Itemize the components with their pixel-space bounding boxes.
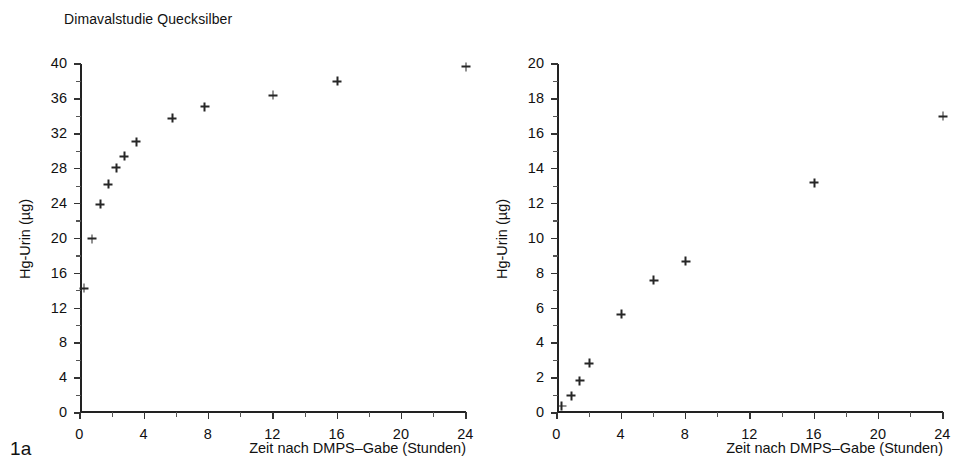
data-point-1b	[617, 310, 626, 319]
y-tick-1b: 10	[551, 238, 558, 240]
y-axis-label-1b: Hg-Urin (µg)	[491, 64, 513, 413]
y-minor-tick-1b	[553, 325, 558, 326]
x-tick-1b: 0	[556, 412, 558, 419]
y-tick-label-1b: 18	[528, 90, 544, 106]
data-point-1a	[132, 137, 141, 146]
y-tick-1a: 4	[74, 377, 81, 379]
data-point-1a	[333, 77, 342, 86]
data-point-1a	[462, 62, 471, 71]
y-tick-label-1b: 4	[536, 334, 544, 350]
x-minor-tick-1a	[240, 412, 241, 417]
data-point-1a	[200, 102, 209, 111]
y-minor-tick-1a	[76, 220, 81, 221]
x-minor-tick-1b	[653, 412, 654, 417]
y-tick-1a: 36	[74, 98, 81, 100]
y-minor-tick-1a	[76, 395, 81, 396]
y-minor-tick-1a	[76, 186, 81, 187]
y-tick-label-1a: 8	[59, 334, 67, 350]
x-minor-tick-1a	[176, 412, 177, 417]
data-point-1a	[112, 163, 121, 172]
y-minor-tick-1a	[76, 290, 81, 291]
x-tick-1b: 8	[685, 412, 687, 419]
data-point-1b	[585, 359, 594, 368]
x-minor-tick-1a	[112, 412, 113, 417]
data-point-1b	[649, 276, 658, 285]
y-tick-1b: 14	[551, 168, 558, 170]
y-tick-label-1b: 20	[528, 55, 544, 71]
plot-area-1b: 0246810121416182004812162024	[557, 64, 943, 413]
y-minor-tick-1b	[553, 151, 558, 152]
y-tick-label-1b: 6	[536, 300, 544, 316]
y-minor-tick-1a	[76, 116, 81, 117]
y-tick-label-1a: 36	[51, 90, 67, 106]
x-tick-1b: 4	[621, 412, 623, 419]
y-minor-tick-1b	[553, 116, 558, 117]
x-tick-1a: 4	[144, 412, 146, 419]
y-tick-label-1b: 8	[536, 265, 544, 281]
y-tick-label-1a: 0	[59, 404, 67, 420]
x-minor-tick-1b	[717, 412, 718, 417]
chart-title-1a: Dimavalstudie Quecksilber	[64, 11, 232, 27]
data-point-1a	[269, 91, 278, 100]
x-tick-1a: 24	[465, 412, 467, 419]
y-tick-1b: 4	[551, 342, 558, 344]
y-tick-1a: 20	[74, 238, 81, 240]
y-tick-label-1b: 12	[528, 195, 544, 211]
y-minor-tick-1b	[553, 255, 558, 256]
y-minor-tick-1a	[76, 255, 81, 256]
data-point-1a	[88, 234, 97, 243]
x-tick-1b: 12	[749, 412, 751, 419]
x-tick-1a: 0	[79, 412, 81, 419]
y-minor-tick-1b	[553, 220, 558, 221]
y-tick-1a: 24	[74, 203, 81, 205]
y-tick-label-1b: 0	[536, 404, 544, 420]
y-minor-tick-1b	[553, 186, 558, 187]
data-point-1b	[575, 376, 584, 385]
data-point-1b	[567, 391, 576, 400]
data-point-1b	[681, 257, 690, 266]
y-tick-1b: 20	[551, 63, 558, 65]
y-tick-label-1b: 10	[528, 230, 544, 246]
plot-area-1a: 048121620242832364004812162024	[80, 64, 466, 413]
y-tick-1a: 40	[74, 63, 81, 65]
x-minor-tick-1b	[782, 412, 783, 417]
y-minor-tick-1a	[76, 81, 81, 82]
x-minor-tick-1b	[589, 412, 590, 417]
y-tick-1a: 32	[74, 133, 81, 135]
y-tick-label-1a: 16	[51, 265, 67, 281]
y-tick-label-1a: 24	[51, 195, 67, 211]
x-tick-1a: 16	[337, 412, 339, 419]
chart-panel-1b: Dimavalstudie Quecksilber Hg-Urin (µg) 0…	[477, 0, 954, 466]
x-minor-tick-1b	[846, 412, 847, 417]
x-tick-1a: 20	[401, 412, 403, 419]
y-tick-label-1a: 12	[51, 300, 67, 316]
y-tick-1b: 2	[551, 377, 558, 379]
y-axis-label-1a: Hg-Urin (µg)	[14, 64, 36, 413]
y-tick-label-1b: 14	[528, 160, 544, 176]
y-minor-tick-1a	[76, 360, 81, 361]
y-tick-label-1a: 4	[59, 369, 67, 385]
y-tick-label-1b: 2	[536, 369, 544, 385]
x-tick-1b: 24	[942, 412, 944, 419]
y-minor-tick-1a	[76, 151, 81, 152]
data-point-1a	[104, 180, 113, 189]
x-tick-1b: 16	[814, 412, 816, 419]
x-tick-1a: 8	[208, 412, 210, 419]
y-tick-1b: 6	[551, 308, 558, 310]
y-tick-label-1a: 28	[51, 160, 67, 176]
figure-tag-1a: 1a	[10, 438, 32, 460]
y-axis-label-text-1b: Hg-Urin (µg)	[494, 198, 510, 278]
y-tick-1b: 8	[551, 273, 558, 275]
y-minor-tick-1b	[553, 395, 558, 396]
x-minor-tick-1b	[910, 412, 911, 417]
x-axis-label-1a: Zeit nach DMPS–Gabe (Stunden)	[80, 440, 466, 456]
y-tick-label-1a: 32	[51, 125, 67, 141]
x-tick-1a: 12	[272, 412, 274, 419]
y-tick-1a: 8	[74, 342, 81, 344]
x-tick-1b: 20	[878, 412, 880, 419]
x-minor-tick-1a	[433, 412, 434, 417]
y-tick-label-1a: 20	[51, 230, 67, 246]
data-point-1b	[810, 178, 819, 187]
y-tick-1a: 28	[74, 168, 81, 170]
y-tick-label-1b: 16	[528, 125, 544, 141]
